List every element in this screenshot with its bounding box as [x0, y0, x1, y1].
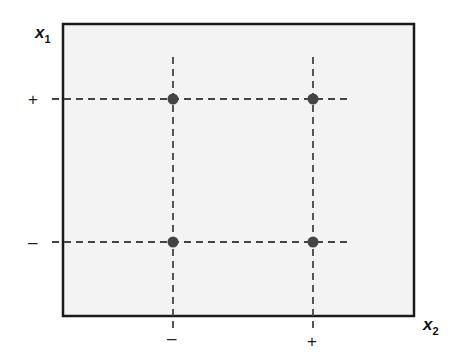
- point-low-low: [168, 237, 179, 248]
- point-high-high: [308, 94, 319, 105]
- x-axis-label: x2: [422, 315, 439, 337]
- point-low-high: [168, 94, 179, 105]
- design-frame: [63, 24, 414, 316]
- factorial-design-diagram: x1 x2 + – – +: [0, 0, 460, 361]
- y-tick-low: –: [28, 233, 38, 252]
- y-tick-high: +: [28, 90, 38, 109]
- x-tick-low: –: [167, 329, 177, 348]
- y-axis-label: x1: [34, 23, 51, 45]
- x-tick-high: +: [307, 332, 317, 351]
- point-high-low: [308, 237, 319, 248]
